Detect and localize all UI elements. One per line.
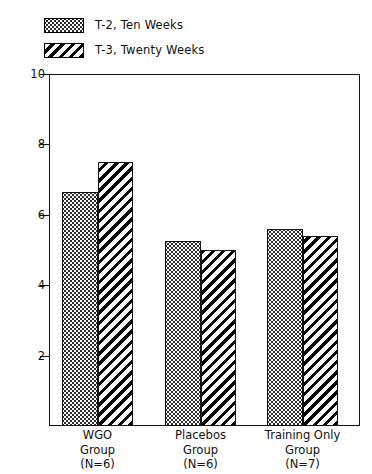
y-tick-label-2: 2 [38,349,45,363]
x-category-line: Placebos [150,428,252,443]
legend-item-t2: T-2, Ten Weeks [44,14,304,36]
x-category-line: (N=6) [47,457,149,472]
chart-legend: T-2, Ten Weeks T-3, Twenty Weeks [44,14,304,64]
bar-t2-group2 [165,241,201,427]
bar-t3-group3 [303,236,339,426]
legend-label-t2: T-2, Ten Weeks [95,18,183,32]
y-tick-label-4: 4 [38,278,45,292]
y-tick-label-10: 10 [30,67,45,81]
x-category-line: (N=6) [150,457,252,472]
x-category-label-2: PlacebosGroup(N=6) [150,428,252,472]
legend-swatch-dots-icon [44,18,84,33]
x-category-line: Training Only [252,428,354,443]
x-category-line: (N=7) [252,457,354,472]
bar-t2-group3 [267,229,303,426]
x-category-label-3: Training OnlyGroup(N=7) [252,428,354,472]
y-tick-label-8: 8 [38,137,45,151]
x-category-label-1: WGOGroup(N=6) [47,428,149,472]
legend-label-t3: T-3, Twenty Weeks [95,43,205,57]
legend-item-t3: T-3, Twenty Weeks [44,39,304,61]
x-category-line: Group [150,443,252,458]
bar-chart-figure: T-2, Ten Weeks T-3, Twenty Weeks Amplitu… [0,0,372,474]
legend-swatch-hatch-icon [44,43,84,58]
y-tick-label-6: 6 [38,208,45,222]
bar-t2-group1 [62,192,98,426]
bar-t3-group2 [201,250,237,426]
x-category-line: WGO [47,428,149,443]
plot-area: 10 8 6 4 2 [49,74,360,426]
bar-t3-group1 [98,162,134,426]
x-axis-categories: WGOGroup(N=6)PlacebosGroup(N=6)Training … [49,428,360,474]
x-category-line: Group [47,443,149,458]
x-category-line: Group [252,443,354,458]
